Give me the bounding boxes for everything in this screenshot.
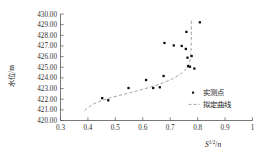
data-point bbox=[159, 86, 161, 88]
data-point bbox=[163, 42, 165, 44]
data-point bbox=[185, 31, 187, 33]
x-tick-label: 0.5 bbox=[111, 124, 120, 132]
data-point bbox=[145, 79, 147, 81]
data-point bbox=[152, 87, 154, 89]
data-point bbox=[185, 48, 187, 50]
legend-marker-measured-points bbox=[192, 92, 194, 94]
rating-curve-chart: 430.00429.00428.00427.00426.00425.00424.… bbox=[0, 0, 267, 158]
y-axis-title: 水位/m bbox=[7, 65, 16, 87]
y-tick-label: 424.00 bbox=[37, 74, 57, 82]
legend-label-measured-points: 实测点 bbox=[203, 88, 225, 97]
y-tick-label: 422.00 bbox=[37, 96, 57, 104]
data-point bbox=[190, 55, 192, 57]
x-tick-label: 0.3 bbox=[56, 124, 65, 132]
x-axis-ticks bbox=[61, 117, 253, 120]
x-axis-title-denominator: n bbox=[217, 140, 221, 149]
data-point bbox=[127, 87, 129, 89]
data-point bbox=[162, 75, 164, 77]
data-point bbox=[199, 21, 201, 23]
x-tick-label: 0.8 bbox=[193, 124, 202, 132]
data-point bbox=[101, 97, 103, 99]
measured-points-series bbox=[101, 21, 201, 101]
chart-legend: 实测点 拟定曲线 bbox=[189, 88, 233, 109]
data-point bbox=[186, 57, 188, 59]
y-tick-label: 423.00 bbox=[37, 85, 57, 93]
x-tick-label: 0.7 bbox=[166, 124, 175, 132]
y-tick-label: 421.00 bbox=[37, 106, 57, 114]
y-tick-label: 425.00 bbox=[37, 64, 57, 72]
x-axis-title-text: S1/2/n bbox=[205, 139, 221, 149]
x-axis-title: S1/2/n bbox=[205, 139, 221, 149]
data-point bbox=[189, 66, 191, 68]
data-point bbox=[181, 45, 183, 47]
y-tick-label: 429.00 bbox=[37, 21, 57, 29]
y-tick-label: 420.00 bbox=[37, 117, 57, 125]
x-tick-label: 1 bbox=[251, 124, 255, 132]
data-point bbox=[173, 44, 175, 46]
y-axis-title-text: 水位/m bbox=[7, 65, 16, 87]
x-axis-tick-labels: 0.30.40.50.60.70.80.91 bbox=[56, 124, 255, 132]
y-tick-label: 426.00 bbox=[37, 53, 57, 61]
y-tick-label: 428.00 bbox=[37, 32, 57, 40]
y-axis-ticks bbox=[61, 14, 64, 121]
y-tick-label: 427.00 bbox=[37, 42, 57, 50]
x-tick-label: 0.9 bbox=[221, 124, 230, 132]
data-point bbox=[193, 67, 195, 69]
data-point bbox=[107, 99, 109, 101]
fitted-curve-series bbox=[85, 20, 192, 111]
y-axis-tick-labels: 430.00429.00428.00427.00426.00425.00424.… bbox=[37, 11, 57, 126]
y-tick-label: 430.00 bbox=[37, 11, 57, 19]
chart-figure: 430.00429.00428.00427.00426.00425.00424.… bbox=[0, 0, 267, 158]
legend-label-fitted-curve: 拟定曲线 bbox=[203, 100, 232, 109]
x-tick-label: 0.6 bbox=[138, 124, 147, 132]
x-tick-label: 0.4 bbox=[83, 124, 92, 132]
fitted-curve-line bbox=[85, 20, 192, 111]
